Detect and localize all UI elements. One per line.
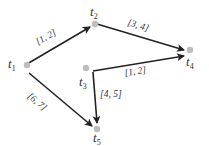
edge-label-t1-t5: [6, 7] — [26, 91, 49, 113]
edge-t3-t5 — [93, 72, 97, 123]
node-t2 — [92, 21, 98, 27]
node-label-t1: t1 — [8, 56, 16, 73]
edge-label-t3-t4: [1, 2] — [124, 65, 147, 78]
edge-label-t3-t5: [4, 5] — [100, 89, 122, 99]
node-label-t4: t4 — [186, 54, 194, 71]
node-label-t5: t5 — [93, 130, 101, 146]
temporal-graph: t1 t2 t3 t4 t5 [1, 2] [3, 4] [1, 2] [4, … — [0, 0, 209, 146]
edge-label-t2-t4: [3, 4] — [126, 17, 150, 33]
edge-t1-t2 — [27, 27, 90, 64]
node-t1 — [24, 62, 30, 68]
node-t4 — [187, 47, 193, 53]
node-label-t3: t3 — [79, 74, 87, 91]
node-t3 — [83, 65, 89, 71]
edge-label-t1-t2: [1, 2] — [34, 27, 58, 47]
node-label-t2: t2 — [90, 4, 98, 21]
